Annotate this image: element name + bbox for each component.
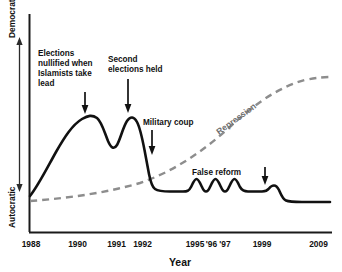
annotation-elections-nullified-line-1: Elections xyxy=(38,49,75,58)
annotation-false-reform-label: False reform xyxy=(192,168,241,177)
x-tick-label-1996: '96 xyxy=(206,239,218,249)
y-axis-label-bottom: Autocratic xyxy=(7,186,17,228)
series-democratization-line xyxy=(30,116,330,202)
annotation-unlabeled-1999 xyxy=(262,167,269,185)
annotation-second-elections-line-2: elections held xyxy=(108,65,163,74)
x-axis-tick-labels: 1988 1990 1991 1992 1995 '96 '97 1999 20… xyxy=(22,239,328,249)
x-tick-label-2009: 2009 xyxy=(309,239,328,249)
annotation-elections-nullified-arrowhead xyxy=(82,105,89,114)
y-axis-label-top: Democratic xyxy=(7,0,17,38)
x-tick-label-1995: 1995 xyxy=(186,239,205,249)
annotation-second-elections-arrowhead xyxy=(125,104,132,113)
x-tick-label-1992: 1992 xyxy=(133,239,152,249)
y-axis-direction-arrow xyxy=(16,37,22,192)
annotation-elections-nullified-line-2: nullified when xyxy=(38,59,93,68)
annotation-elections-nullified-line-3: Islamists take xyxy=(38,69,92,78)
x-tick-label-1997: '97 xyxy=(219,239,231,249)
annotation-repression: Repression xyxy=(214,101,258,137)
series-repression-line xyxy=(30,77,332,201)
x-tick-label-1988: 1988 xyxy=(22,239,41,249)
chart-figure: Democratic Autocratic Elections nullifie… xyxy=(0,0,342,272)
annotation-unlabeled-1999-arrowhead xyxy=(262,176,269,185)
annotation-elections-nullified-line-4: lead xyxy=(38,79,54,88)
chart-svg: Democratic Autocratic Elections nullifie… xyxy=(0,0,342,272)
annotation-military-coup-label: Military coup xyxy=(143,118,194,127)
annotation-military-coup-arrowhead xyxy=(149,146,156,155)
annotation-second-elections-line-1: Second xyxy=(108,55,138,64)
x-axis-title: Year xyxy=(169,256,191,268)
x-tick-label-1990: 1990 xyxy=(68,239,87,249)
annotation-elections-nullified: Elections nullified when Islamists take … xyxy=(38,49,93,114)
annotation-military-coup: Military coup xyxy=(143,118,194,155)
annotation-second-elections: Second elections held xyxy=(108,55,163,113)
annotation-repression-label: Repression xyxy=(214,101,258,137)
x-tick-label-1991: 1991 xyxy=(107,239,126,249)
x-tick-label-1999: 1999 xyxy=(253,239,272,249)
annotation-false-reform: False reform xyxy=(192,168,241,177)
